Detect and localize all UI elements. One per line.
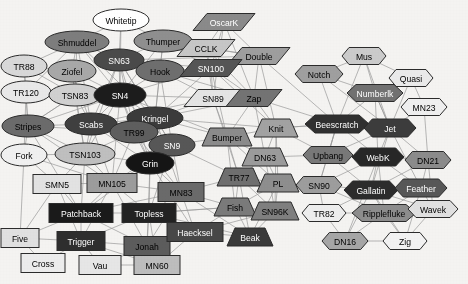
node-knit-shape[interactable]: [254, 119, 298, 137]
node-stripes-shape[interactable]: [2, 115, 54, 137]
node-sn90-shape[interactable]: [296, 177, 342, 194]
graph-node-trigger[interactable]: Trigger: [57, 232, 105, 251]
node-tr120-shape[interactable]: [1, 81, 51, 103]
graph-node-mn23[interactable]: MN23: [401, 99, 447, 116]
graph-node-tr99[interactable]: TR99: [110, 121, 158, 143]
graph-node-oscark[interactable]: OscarK: [193, 14, 255, 31]
graph-node-sn96k[interactable]: SN96K: [251, 202, 299, 220]
node-sn100-shape[interactable]: [180, 60, 242, 77]
node-ziofel-shape[interactable]: [48, 60, 96, 82]
node-topless-shape[interactable]: [122, 204, 176, 223]
graph-node-tr82[interactable]: TR82: [302, 205, 346, 222]
graph-node-mn83[interactable]: MN83: [158, 183, 204, 202]
graph-node-five[interactable]: Five: [1, 229, 39, 248]
graph-node-haecksel[interactable]: Haecksel: [167, 223, 223, 242]
graph-node-webk[interactable]: WebK: [352, 148, 404, 166]
graph-node-dn16[interactable]: DN16: [322, 233, 368, 250]
node-fork-shape[interactable]: [1, 144, 47, 166]
node-pl-shape[interactable]: [257, 174, 299, 192]
node-numberlk-shape[interactable]: [347, 85, 403, 102]
node-whitetip-shape[interactable]: [93, 9, 149, 31]
node-smn5-shape[interactable]: [33, 175, 81, 194]
node-mn105-shape[interactable]: [87, 174, 137, 193]
graph-node-beak[interactable]: Beak: [227, 228, 273, 246]
graph-node-bumper[interactable]: Bumper: [202, 128, 252, 146]
graph-node-sn4[interactable]: SN4: [94, 83, 146, 107]
graph-node-knit[interactable]: Knit: [254, 119, 298, 137]
graph-node-shmuddel[interactable]: Shmuddel: [45, 31, 109, 53]
node-feather-shape[interactable]: [395, 179, 447, 197]
graph-node-fish[interactable]: Fish: [214, 198, 256, 216]
node-trigger-shape[interactable]: [57, 232, 105, 251]
graph-node-grin[interactable]: Grin: [126, 152, 174, 174]
node-cross-shape[interactable]: [21, 254, 65, 273]
graph-node-tsn103[interactable]: TSN103: [55, 143, 115, 165]
graph-node-vau[interactable]: Vau: [79, 256, 121, 275]
node-patchback-shape[interactable]: [49, 204, 113, 223]
graph-node-notch[interactable]: Notch: [295, 66, 343, 83]
node-tr99-shape[interactable]: [110, 121, 158, 143]
node-tr88-shape[interactable]: [1, 55, 47, 77]
node-fish-shape[interactable]: [214, 198, 256, 216]
graph-node-topless[interactable]: Topless: [122, 204, 176, 223]
graph-node-fork[interactable]: Fork: [1, 144, 47, 166]
graph-node-quasi[interactable]: Quasi: [389, 70, 433, 87]
graph-node-tsn83[interactable]: TSN83: [49, 84, 101, 106]
graph-node-hook[interactable]: Hook: [136, 60, 184, 82]
node-upbang-shape[interactable]: [303, 147, 353, 164]
graph-node-wavek[interactable]: Wavek: [408, 201, 458, 218]
graph-node-zig[interactable]: Zig: [383, 233, 427, 250]
graph-node-stripes[interactable]: Stripes: [2, 115, 54, 137]
node-vau-shape[interactable]: [79, 256, 121, 275]
node-notch-shape[interactable]: [295, 66, 343, 83]
node-gallatin-shape[interactable]: [344, 181, 398, 199]
node-quasi-shape[interactable]: [389, 70, 433, 87]
graph-node-dn63[interactable]: DN63: [242, 148, 288, 166]
graph-node-dn21[interactable]: DN21: [405, 152, 451, 169]
node-mn23-shape[interactable]: [401, 99, 447, 116]
node-dn63-shape[interactable]: [242, 148, 288, 166]
graph-node-smn5[interactable]: SMN5: [33, 175, 81, 194]
node-jonah-shape[interactable]: [124, 237, 170, 256]
graph-node-scabs[interactable]: Scabs: [65, 113, 117, 135]
graph-node-mn60[interactable]: MN60: [134, 256, 180, 275]
node-oscark-shape[interactable]: [193, 14, 255, 31]
graph-node-feather[interactable]: Feather: [395, 179, 447, 197]
graph-node-jet[interactable]: Jet: [364, 119, 416, 137]
node-grin-shape[interactable]: [126, 152, 174, 174]
graph-node-sn90[interactable]: SN90: [296, 177, 342, 194]
node-hook-shape[interactable]: [136, 60, 184, 82]
graph-node-upbang[interactable]: Upbang: [303, 147, 353, 164]
node-mn83-shape[interactable]: [158, 183, 204, 202]
graph-node-patchback[interactable]: Patchback: [49, 204, 113, 223]
graph-node-cross[interactable]: Cross: [21, 254, 65, 273]
graph-node-beescratch[interactable]: Beescratch: [305, 115, 369, 133]
node-zig-shape[interactable]: [383, 233, 427, 250]
graph-node-ripplefluke[interactable]: Ripplefluke: [352, 205, 416, 222]
graph-node-tr120[interactable]: TR120: [1, 81, 51, 103]
node-jet-shape[interactable]: [364, 119, 416, 137]
node-webk-shape[interactable]: [352, 148, 404, 166]
node-dn21-shape[interactable]: [405, 152, 451, 169]
node-dn16-shape[interactable]: [322, 233, 368, 250]
graph-node-pl[interactable]: PL: [257, 174, 299, 192]
node-scabs-shape[interactable]: [65, 113, 117, 135]
graph-node-jonah[interactable]: Jonah: [124, 237, 170, 256]
node-mn60-shape[interactable]: [134, 256, 180, 275]
node-ripplefluke-shape[interactable]: [352, 205, 416, 222]
node-bumper-shape[interactable]: [202, 128, 252, 146]
node-tr82-shape[interactable]: [302, 205, 346, 222]
node-haecksel-shape[interactable]: [167, 223, 223, 242]
node-tr77-shape[interactable]: [217, 168, 261, 186]
graph-node-gallatin[interactable]: Gallatin: [344, 181, 398, 199]
graph-node-mus[interactable]: Mus: [342, 48, 386, 65]
node-tsn83-shape[interactable]: [49, 84, 101, 106]
node-beak-shape[interactable]: [227, 228, 273, 246]
node-tsn103-shape[interactable]: [55, 143, 115, 165]
node-five-shape[interactable]: [1, 229, 39, 248]
graph-node-whitetip[interactable]: Whitetip: [93, 9, 149, 31]
node-beescratch-shape[interactable]: [305, 115, 369, 133]
node-sn4-shape[interactable]: [94, 83, 146, 107]
graph-node-mn105[interactable]: MN105: [87, 174, 137, 193]
graph-node-sn100[interactable]: SN100: [180, 60, 242, 77]
